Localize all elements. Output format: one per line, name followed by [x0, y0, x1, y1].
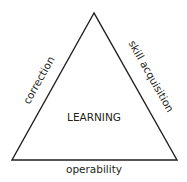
bottom-side-label: operability — [66, 163, 122, 175]
learning-triangle-diagram: LEARNING correction skill acquisition op… — [0, 0, 187, 182]
left-side-label: correction — [20, 54, 56, 106]
center-label: LEARNING — [67, 111, 121, 123]
right-side-label: skill acquisition — [126, 38, 176, 114]
